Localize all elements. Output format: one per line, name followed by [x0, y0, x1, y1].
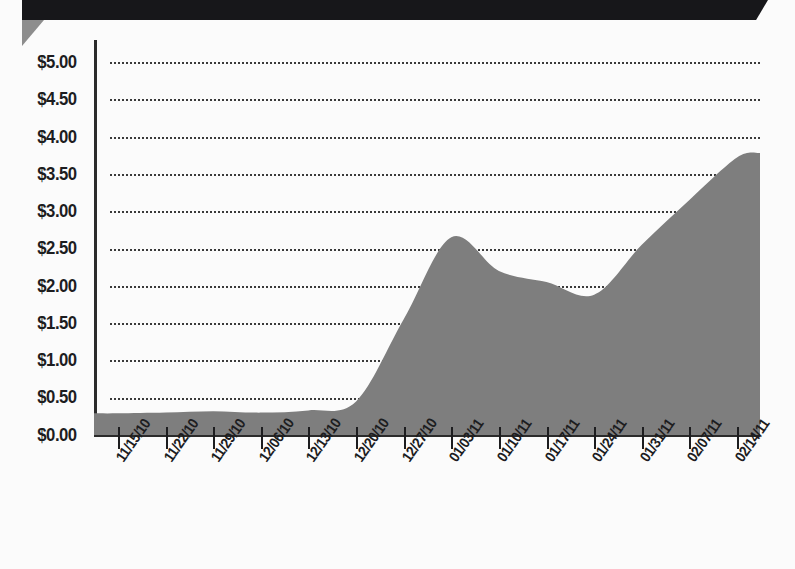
document-header-bar — [22, 0, 768, 20]
y-tick-label: $4.00 — [38, 126, 77, 148]
chart-root: $5.00 $4.50 $4.00 $3.50 $3.00 $2.50 $2.0… — [0, 0, 795, 569]
y-tick-label: $3.00 — [38, 200, 77, 222]
area-series — [94, 40, 760, 436]
y-axis-labels: $5.00 $4.50 $4.00 $3.50 $3.00 $2.50 $2.0… — [0, 0, 86, 569]
area-fill — [94, 153, 760, 435]
y-tick-label: $2.00 — [38, 275, 77, 297]
y-tick-label: $1.00 — [38, 349, 77, 371]
y-tick-label: $3.50 — [38, 163, 77, 185]
y-tick-label: $2.50 — [38, 237, 77, 259]
y-tick-label: $0.50 — [38, 386, 77, 408]
y-tick-label: $0.00 — [38, 424, 77, 446]
y-tick-label: $4.50 — [38, 88, 77, 110]
y-tick-label: $5.00 — [38, 51, 77, 73]
y-tick-label: $1.50 — [38, 312, 77, 334]
plot-area — [94, 40, 760, 436]
